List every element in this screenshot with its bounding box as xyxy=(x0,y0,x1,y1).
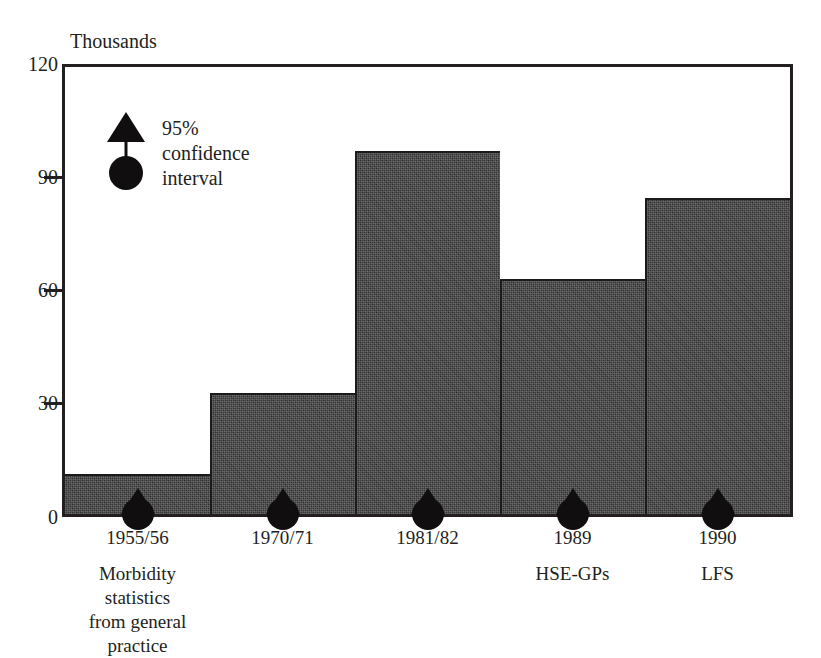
x-axis-source-labels: Morbidity statistics from general practi… xyxy=(65,562,790,658)
bar-1989 xyxy=(500,279,645,514)
y-tick-mark-90 xyxy=(44,176,62,179)
x-label-1970-71: 1970/71 xyxy=(210,526,355,550)
bar-1990 xyxy=(645,198,790,514)
y-tick-mark-60 xyxy=(44,289,62,292)
x-source-line-1: LFS xyxy=(645,562,790,586)
legend-ci-marker-icon xyxy=(104,112,148,190)
legend-line-2: confidence xyxy=(162,141,250,166)
y-axis: 120 90 60 30 0 xyxy=(0,0,58,653)
legend-line-1: 95% xyxy=(162,116,250,141)
y-axis-title: Thousands xyxy=(70,30,157,53)
legend-label: 95% confidence interval xyxy=(162,112,250,191)
y-tick-label-0: 0 xyxy=(20,507,58,527)
bar-1970-71 xyxy=(210,393,355,514)
bar-cell-1990 xyxy=(645,67,790,514)
x-source-empty-3 xyxy=(355,562,500,658)
x-axis-year-labels: 1955/56 1970/71 1981/82 1989 1990 xyxy=(65,526,790,550)
x-source-empty-2 xyxy=(210,562,355,658)
bar-1981-82 xyxy=(355,151,500,514)
legend-line-3: interval xyxy=(162,166,250,191)
x-label-1955-56: 1955/56 xyxy=(65,526,210,550)
bar-cell-1981-82 xyxy=(355,67,500,514)
legend: 95% confidence interval xyxy=(104,112,250,191)
y-tick-mark-30 xyxy=(44,402,62,405)
x-label-1990: 1990 xyxy=(645,526,790,550)
x-label-1981-82: 1981/82 xyxy=(355,526,500,550)
legend-triangle-icon xyxy=(107,112,145,142)
x-source-line-1: HSE-GPs xyxy=(500,562,645,586)
bar-cell-1989 xyxy=(500,67,645,514)
y-tick-label-120: 120 xyxy=(20,54,58,74)
legend-circle-icon xyxy=(109,156,143,190)
x-source-morbidity-statistics: Morbidity statistics from general practi… xyxy=(65,562,210,658)
x-source-lfs: LFS xyxy=(645,562,790,658)
x-label-1989: 1989 xyxy=(500,526,645,550)
bar-1955-56 xyxy=(65,474,210,514)
x-source-line-2: from general practice xyxy=(65,610,210,658)
x-source-line-1: Morbidity statistics xyxy=(65,562,210,610)
x-source-hse-gps: HSE-GPs xyxy=(500,562,645,658)
